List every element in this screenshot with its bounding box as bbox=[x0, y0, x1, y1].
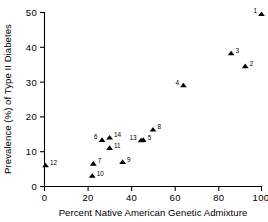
y-tick-label: 30 bbox=[26, 77, 37, 88]
data-point-label: 3 bbox=[236, 47, 240, 54]
triangle-marker bbox=[150, 127, 157, 132]
triangle-marker bbox=[258, 11, 265, 16]
data-point-label: 13 bbox=[130, 134, 138, 141]
x-tick-label: 60 bbox=[170, 192, 181, 203]
data-point: 6 bbox=[94, 133, 105, 142]
y-axis-title: Prevalence (%) of Type II Diabetes bbox=[2, 24, 13, 174]
triangle-marker bbox=[89, 173, 96, 178]
triangle-marker bbox=[99, 137, 106, 142]
data-point: 2 bbox=[242, 60, 254, 68]
triangle-marker bbox=[242, 64, 249, 69]
y-tick-label: 0 bbox=[31, 181, 37, 192]
x-tick-label: 20 bbox=[83, 192, 94, 203]
data-points-layer: 1234567891011121314 bbox=[42, 7, 265, 178]
data-point-label: 2 bbox=[250, 60, 254, 67]
y-tick-label: 10 bbox=[26, 146, 37, 157]
data-point-label: 9 bbox=[127, 156, 131, 163]
x-axis-title: Percent Native American Genetic Admixtur… bbox=[59, 207, 248, 218]
x-tick-label: 100 bbox=[253, 192, 268, 203]
x-axis-tick-labels: 0 20 40 60 80 100 bbox=[42, 192, 268, 203]
triangle-marker bbox=[106, 145, 113, 150]
data-point-label: 4 bbox=[175, 79, 179, 86]
triangle-marker bbox=[90, 161, 97, 166]
triangle-marker bbox=[119, 159, 126, 164]
data-point: 4 bbox=[175, 79, 186, 88]
triangle-marker bbox=[106, 135, 113, 140]
data-point: 1 bbox=[254, 7, 265, 16]
x-tick-label: 40 bbox=[126, 192, 137, 203]
data-point-label: 7 bbox=[98, 157, 102, 164]
data-point-label: 12 bbox=[50, 159, 58, 166]
chart-figure: 0 10 20 30 40 50 0 20 40 60 80 100 Perce… bbox=[0, 0, 268, 222]
data-point: 14 bbox=[106, 131, 121, 139]
triangle-marker bbox=[180, 83, 187, 88]
scatter-plot: 0 10 20 30 40 50 0 20 40 60 80 100 Perce… bbox=[0, 0, 268, 222]
data-point-label: 8 bbox=[157, 123, 161, 130]
data-point-label: 14 bbox=[114, 131, 122, 138]
y-tick-label: 50 bbox=[26, 7, 37, 18]
y-axis-ticks bbox=[40, 13, 45, 187]
data-point: 11 bbox=[106, 142, 121, 150]
data-point: 3 bbox=[228, 47, 240, 55]
x-axis-ticks bbox=[45, 187, 262, 192]
data-point-label: 5 bbox=[148, 134, 152, 141]
x-tick-label: 80 bbox=[213, 192, 224, 203]
data-point: 9 bbox=[119, 156, 131, 164]
triangle-marker bbox=[42, 163, 49, 168]
y-tick-label: 40 bbox=[26, 42, 37, 53]
data-point-label: 6 bbox=[94, 133, 98, 140]
data-point-label: 11 bbox=[114, 142, 121, 149]
y-axis-tick-labels: 0 10 20 30 40 50 bbox=[26, 7, 37, 192]
data-point-label: 10 bbox=[97, 170, 105, 177]
x-tick-label: 0 bbox=[42, 192, 48, 203]
data-point-label: 1 bbox=[254, 7, 258, 14]
triangle-marker bbox=[228, 51, 235, 56]
data-point: 7 bbox=[90, 157, 102, 165]
data-point: 8 bbox=[150, 123, 162, 131]
data-point: 13 bbox=[130, 134, 145, 143]
data-point: 10 bbox=[89, 170, 104, 178]
y-tick-label: 20 bbox=[26, 111, 37, 122]
